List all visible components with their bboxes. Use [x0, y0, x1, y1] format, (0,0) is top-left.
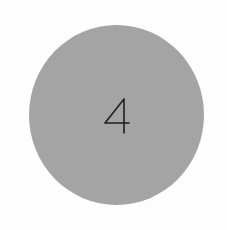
badge-number-text: 4	[104, 134, 105, 135]
badge-number: 4	[104, 98, 130, 134]
canvas: 4	[0, 0, 227, 230]
number-badge: 4	[29, 25, 204, 205]
numeral-glyph	[104, 98, 130, 134]
